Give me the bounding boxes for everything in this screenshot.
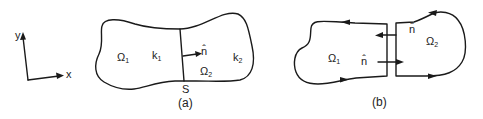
x-axis-label: x	[66, 69, 72, 80]
coordinate-axes	[20, 32, 64, 80]
panel-b-omega1-outline	[294, 21, 387, 84]
region-omega-1-label-b: Ω1	[328, 53, 340, 65]
domain-decomposition-figure: y x Ω1 k1 n̂ Ω2 k2 S (a) Ω1 n̂ n̂ Ω2 (b)	[0, 0, 483, 119]
panel-a-caption: (a)	[178, 97, 193, 109]
flow-arrow-icon	[428, 74, 437, 80]
normal-label-b-1: n̂	[361, 56, 367, 67]
panel-b-caption: (b)	[372, 96, 387, 108]
normal-arrow-a	[183, 54, 197, 56]
region-omega-2-label: Ω2	[200, 66, 212, 78]
region-omega-1-label: Ω1	[117, 52, 129, 64]
flow-arrow-icon	[341, 20, 350, 26]
conductivity-k1-label: k1	[152, 50, 161, 62]
normal-label-a: n̂	[201, 46, 207, 57]
conductivity-k2-label: k2	[233, 52, 242, 64]
normal-label-b-2: n̂	[409, 24, 415, 35]
panel-b-domains	[294, 10, 465, 84]
normal-arrowhead-icon	[396, 59, 404, 65]
region-omega-2-label-b: Ω2	[426, 36, 438, 48]
interface-s	[180, 29, 184, 81]
y-axis-label: y	[15, 30, 21, 41]
flow-arrow-icon	[340, 77, 349, 83]
normal-arrowhead-icon	[375, 32, 383, 38]
x-axis-arrowhead-icon	[56, 73, 64, 80]
interface-s-label: S	[182, 84, 189, 95]
